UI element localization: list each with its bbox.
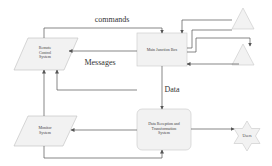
mjb-to-sensor-top-edge	[187, 30, 232, 48]
sensor-bottom-triangle-node	[232, 44, 254, 65]
data-reception-label: Data Reception and Transformation System	[148, 122, 180, 136]
data-edge-label: Data	[164, 85, 179, 94]
flowchart-canvas	[0, 0, 272, 166]
messages-edge-label: Messages	[84, 58, 115, 67]
rcs-vertical-edge-2	[57, 70, 137, 90]
monitor-system-label: Monitor System	[38, 126, 51, 135]
users-label: Users	[242, 134, 251, 139]
remote-control-label: Remote Control System	[39, 46, 51, 60]
sensor-top-triangle-node	[232, 8, 254, 29]
data-reception-label-line-3: System	[148, 131, 180, 136]
main-junction-box-label: Main Junction Box	[147, 48, 178, 53]
monitor-label-line-2: System	[38, 131, 51, 136]
sensor-top-to-mjb-edge	[182, 20, 232, 33]
remote-control-label-line-3: System	[39, 55, 51, 60]
commands-edge-label: commands	[95, 15, 130, 24]
